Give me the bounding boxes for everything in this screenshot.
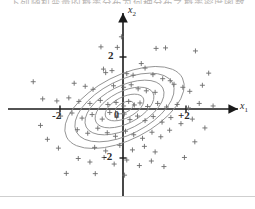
scatter-point bbox=[193, 140, 197, 144]
scatter-point bbox=[203, 126, 207, 130]
scatter-point bbox=[76, 156, 80, 160]
scatter-plot-svg bbox=[0, 0, 255, 209]
scatter-point bbox=[190, 117, 194, 121]
scatter-point bbox=[156, 101, 160, 105]
scatter-point bbox=[86, 131, 90, 135]
x-tick-label-pos2: +2 bbox=[178, 110, 190, 121]
scatter-point bbox=[129, 83, 133, 87]
scatter-point bbox=[122, 104, 126, 108]
contour-level-4 bbox=[76, 69, 172, 146]
y-tick-label-pos2: 2 bbox=[108, 50, 114, 61]
x-axis-label: x1 bbox=[240, 101, 248, 114]
scatter-point bbox=[197, 101, 201, 105]
scatter-point bbox=[101, 67, 105, 71]
scatter-point bbox=[104, 71, 108, 75]
scatter-point bbox=[31, 80, 35, 84]
scatter-point bbox=[80, 116, 84, 120]
scatter-point bbox=[162, 164, 166, 168]
scatter-point bbox=[143, 66, 147, 70]
scatter-point bbox=[153, 150, 157, 154]
figure-container: 下列随机变量的概率分布为何种分布之概率密度函数 bbox=[0, 0, 255, 209]
x-axis-label-sub: 1 bbox=[244, 106, 248, 114]
scatter-point bbox=[160, 120, 164, 124]
scatter-point bbox=[140, 136, 144, 140]
scatter-point bbox=[55, 99, 59, 103]
scatter-point bbox=[182, 155, 186, 159]
scatter-point bbox=[154, 46, 158, 50]
scatter-point bbox=[90, 112, 94, 116]
scatter-point bbox=[41, 97, 45, 101]
origin-label: 0 bbox=[114, 110, 119, 120]
scatter-point bbox=[200, 83, 204, 87]
scatter-point bbox=[110, 69, 114, 73]
scatter-point bbox=[64, 171, 68, 175]
scatter-point bbox=[88, 101, 92, 105]
y-tick-label-neg2: -2 bbox=[103, 151, 112, 162]
scatter-point bbox=[38, 123, 42, 127]
scatter-point bbox=[99, 45, 103, 49]
scatter-point bbox=[108, 110, 112, 114]
scatter-point bbox=[127, 99, 131, 103]
scatter-point bbox=[168, 128, 172, 132]
scatter-point bbox=[88, 160, 92, 164]
scatter-point bbox=[138, 101, 142, 105]
scatter-point bbox=[169, 115, 173, 119]
scatter-point bbox=[93, 172, 97, 176]
scatter-point bbox=[149, 159, 153, 163]
scatter-point bbox=[128, 118, 132, 122]
scatter-point bbox=[112, 162, 116, 166]
x-tick-label-neg2: -2 bbox=[52, 110, 61, 121]
scatter-point bbox=[130, 148, 134, 152]
scatter-point bbox=[161, 77, 165, 81]
scatter-point bbox=[188, 89, 192, 93]
scatter-point bbox=[131, 73, 135, 77]
contour-ellipses bbox=[52, 49, 197, 165]
scatter-point bbox=[137, 163, 141, 167]
scatter-point bbox=[150, 130, 154, 134]
scatter-point bbox=[207, 71, 211, 75]
y-axis-label-sub: 2 bbox=[132, 10, 136, 18]
scatter-point bbox=[193, 49, 197, 53]
contour-level-2 bbox=[101, 89, 148, 127]
scatter-point bbox=[179, 122, 183, 126]
scatter-point bbox=[122, 85, 126, 89]
scatter-point bbox=[144, 89, 148, 93]
axes-group bbox=[8, 13, 238, 196]
contour-level-6 bbox=[52, 49, 197, 165]
scatter-point bbox=[111, 84, 115, 88]
scatter-point bbox=[96, 126, 100, 130]
scatter-point bbox=[45, 137, 49, 141]
scatter-point bbox=[100, 117, 104, 121]
scatter-point bbox=[56, 146, 60, 150]
scatter-point bbox=[83, 84, 87, 88]
scatter-point bbox=[211, 104, 215, 108]
scatter-point bbox=[163, 46, 167, 50]
scatter-point bbox=[67, 96, 71, 100]
scatter-point bbox=[159, 135, 163, 139]
scatter-point bbox=[139, 61, 143, 65]
scatter-point bbox=[113, 134, 117, 138]
scatter-point bbox=[142, 144, 146, 148]
scatter-point bbox=[115, 45, 119, 49]
y-axis-label: x2 bbox=[128, 5, 136, 18]
scatter-point bbox=[72, 81, 76, 85]
